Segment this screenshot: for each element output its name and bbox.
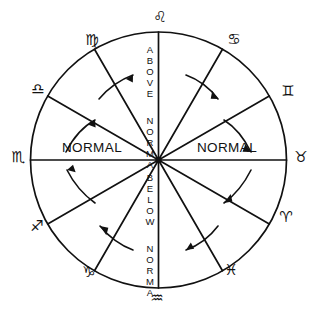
below-letter-1: E [147,183,153,194]
zodiac-glyph-leo: ♌ [153,8,166,26]
center-hub [155,157,161,163]
zodiac-glyph-aquarius: ♒ [150,289,163,307]
zodiac-glyph-libra: ♎ [31,80,44,98]
above-letter-8: R [147,137,154,148]
above-letter-4: E [147,88,153,99]
zodiac-glyph-aries: ♈ [279,208,292,226]
above-letter-7: O [146,126,153,137]
below-letter-8: R [147,265,154,276]
zodiac-glyph-scorpio: ♏ [11,148,25,166]
label-normal-right: NORMAL [197,140,257,155]
below-letter-7: O [146,254,153,265]
below-letter-2: L [147,194,152,205]
zodiac-glyph-capricorn: ♑ [82,263,95,281]
above-letter-6: N [147,115,154,126]
below-letter-9: M [146,276,154,287]
above-letter-9: M [146,148,154,159]
above-letter-0: A [147,44,154,55]
zodiac-glyph-taurus: ♉ [294,148,307,166]
above-letter-2: O [146,66,153,77]
above-letter-10: A [147,159,154,170]
zodiac-glyph-sagittarius: ♐ [30,217,43,235]
below-letter-6: N [147,243,154,254]
label-normal-left: NORMAL [62,140,122,155]
zodiac-glyph-cancer: ♋ [227,30,240,48]
below-letter-0: B [147,172,153,183]
zodiac-glyph-virgo: ♍ [85,31,98,49]
below-letter-3: O [146,205,153,216]
below-letter-4: W [146,216,155,227]
above-letter-1: B [147,55,153,66]
zodiac-wheel-diagram: NORMAL NORMAL A B O V E N O R M A B E L … [0,0,317,315]
above-letter-3: V [147,77,154,88]
zodiac-glyph-pisces: ♓ [224,261,237,279]
wheel-canvas: NORMAL NORMAL A B O V E N O R M A B E L … [0,0,317,315]
zodiac-glyph-gemini: ♊ [281,82,294,100]
